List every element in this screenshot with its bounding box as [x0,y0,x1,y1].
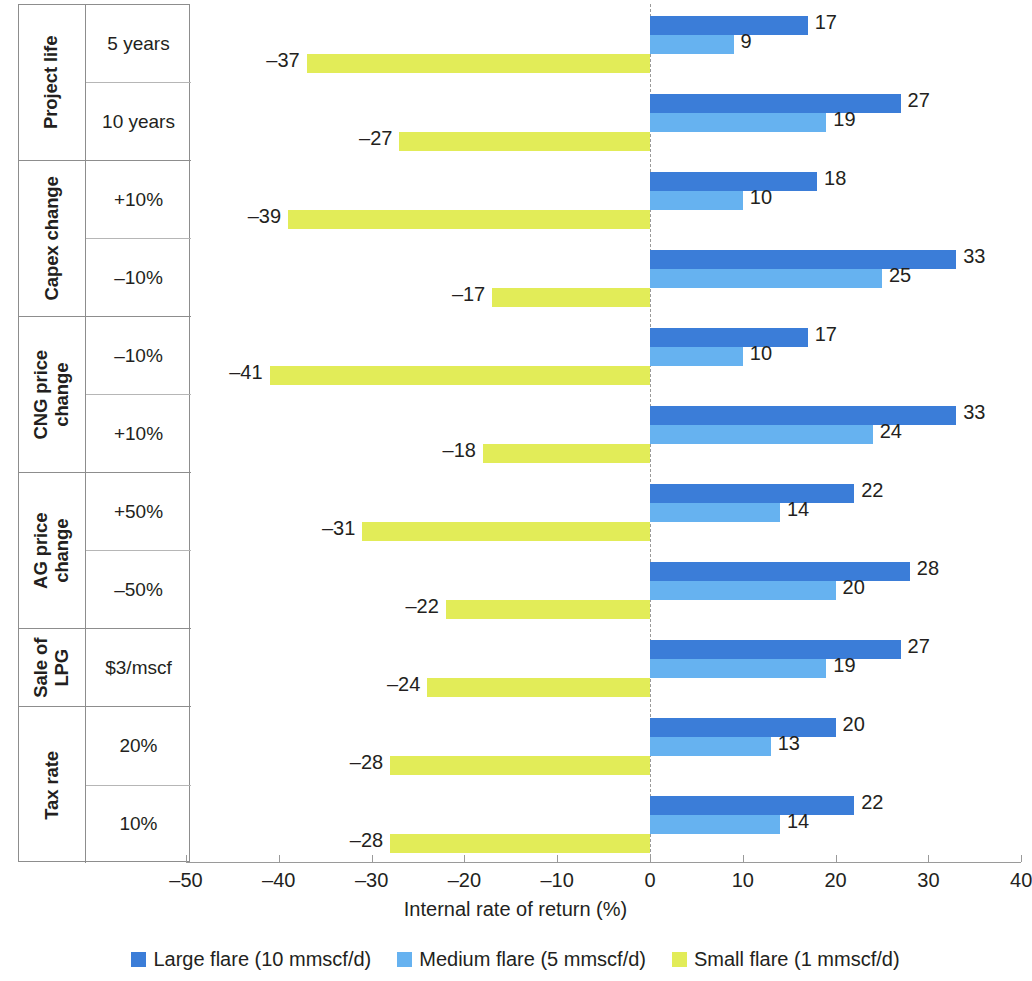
value-label-large: 27 [908,91,930,110]
value-label-large: 20 [843,715,865,734]
chart-legend: Large flare (10 mmscf/d)Medium flare (5 … [0,948,1031,971]
bar-row: 2719–24 [0,628,1031,706]
x-axis-tick-label: –10 [541,869,574,892]
bar-large [650,16,808,35]
bar-medium [650,191,743,210]
bar-small [390,834,650,853]
x-axis-tick-label: 10 [732,869,754,892]
bar-medium [650,425,873,444]
bar-row: 2013–28 [0,706,1031,784]
bar-medium [650,659,826,678]
value-label-large: 27 [908,637,930,656]
value-label-medium: 19 [833,656,855,675]
bar-large [650,562,910,581]
bar-row: 2214–28 [0,784,1031,862]
value-label-small: –22 [405,597,438,616]
value-label-medium: 10 [750,344,772,363]
value-label-small: –24 [387,675,420,694]
bar-row: 1710–41 [0,316,1031,394]
bar-small [362,522,650,541]
legend-item[interactable]: Small flare (1 mmscf/d) [672,948,900,971]
x-axis-tick-label: –40 [262,869,295,892]
bar-large [650,718,836,737]
bar-medium [650,815,780,834]
legend-label: Large flare (10 mmscf/d) [153,948,371,971]
x-axis-tick [279,855,280,862]
value-label-small: –28 [350,831,383,850]
x-axis-tick [743,855,744,862]
value-label-small: –18 [443,441,476,460]
bar-row: 1810–39 [0,160,1031,238]
value-label-large: 33 [963,247,985,266]
bar-small [288,210,650,229]
bar-small [483,444,650,463]
value-label-small: –28 [350,753,383,772]
value-label-medium: 25 [889,266,911,285]
x-axis-tick [464,855,465,862]
x-axis-tick-label: 20 [824,869,846,892]
bar-large [650,172,817,191]
bar-large [650,484,854,503]
x-axis-tick [1021,855,1022,862]
bar-large [650,406,956,425]
value-label-medium: 20 [843,578,865,597]
x-axis-tick-label: 0 [644,869,655,892]
value-label-medium: 14 [787,812,809,831]
legend-label: Small flare (1 mmscf/d) [694,948,900,971]
x-axis-tick-label: 30 [917,869,939,892]
legend-swatch [397,952,412,967]
legend-swatch [672,952,687,967]
value-label-large: 17 [815,13,837,32]
value-label-medium: 10 [750,188,772,207]
value-label-large: 22 [861,793,883,812]
value-label-medium: 24 [880,422,902,441]
x-axis-tick [372,855,373,862]
x-axis-tick [557,855,558,862]
value-label-large: 33 [963,403,985,422]
plot-area: 179–372719–271810–393325–171710–413324–1… [0,4,1031,862]
x-axis-tick-label: –20 [448,869,481,892]
value-label-small: –27 [359,129,392,148]
legend-item[interactable]: Large flare (10 mmscf/d) [131,948,371,971]
x-axis-tick-label: –30 [355,869,388,892]
bar-row: 3324–18 [0,394,1031,472]
x-axis-tick [836,855,837,862]
x-axis-line [186,862,1021,863]
value-label-medium: 9 [741,32,752,51]
bar-row: 2820–22 [0,550,1031,628]
bar-medium [650,737,771,756]
bar-row: 2214–31 [0,472,1031,550]
x-axis-tick-label: –50 [169,869,202,892]
value-label-small: –17 [452,285,485,304]
bar-small [307,54,650,73]
bar-small [390,756,650,775]
legend-item[interactable]: Medium flare (5 mmscf/d) [397,948,646,971]
bar-small [492,288,650,307]
legend-swatch [131,952,146,967]
value-label-small: –41 [229,363,262,382]
value-label-large: 28 [917,559,939,578]
bar-small [446,600,650,619]
value-label-medium: 13 [778,734,800,753]
x-axis-tick [928,855,929,862]
value-label-large: 18 [824,169,846,188]
bar-medium [650,581,836,600]
value-label-medium: 19 [833,110,855,129]
x-axis-tick-label: 40 [1010,869,1032,892]
bar-large [650,640,901,659]
value-label-small: –39 [248,207,281,226]
bar-row: 2719–27 [0,82,1031,160]
bar-medium [650,113,826,132]
x-axis-tick [186,855,187,862]
bar-large [650,94,901,113]
bar-medium [650,269,882,288]
bar-medium [650,503,780,522]
bar-large [650,328,808,347]
bar-row: 179–37 [0,4,1031,82]
bar-row: 3325–17 [0,238,1031,316]
bar-large [650,796,854,815]
legend-label: Medium flare (5 mmscf/d) [419,948,646,971]
bar-medium [650,347,743,366]
bar-medium [650,35,734,54]
